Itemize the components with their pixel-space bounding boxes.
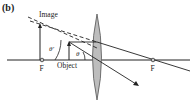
angle-label-inner: θ <box>76 50 80 58</box>
object-label: Object <box>57 61 78 70</box>
focal-label-right: F <box>151 64 155 73</box>
converging-lens-diagram: (b) Image Object θ′ θ F F <box>0 0 190 106</box>
angle-arc-outer <box>55 40 61 60</box>
focal-point-right <box>151 58 155 62</box>
angle-arc-inner <box>83 52 85 60</box>
angle-label-outer: θ′ <box>49 45 54 53</box>
panel-label: (b) <box>2 2 14 14</box>
refracted-ray <box>97 42 190 71</box>
virtual-ray-dashed <box>28 17 97 48</box>
focal-label-left: F <box>40 64 44 73</box>
converging-lens <box>93 14 102 100</box>
central-ray <box>69 42 136 84</box>
focal-point-left <box>40 58 44 62</box>
central-ray-arrowhead-icon <box>133 81 139 86</box>
image-label: Image <box>39 10 58 19</box>
